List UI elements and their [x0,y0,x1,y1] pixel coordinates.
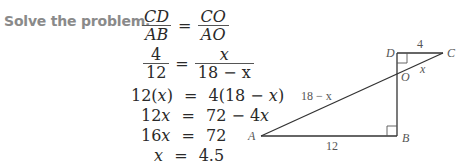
segment-label-oc: x [419,62,426,76]
segment-label-ab: 12 [326,139,338,153]
right-angle-mark-d [397,53,407,63]
point-label-a: A [247,129,256,143]
segment-ac [261,53,443,136]
point-label-b: B [402,131,410,145]
segment-label-ao: 18 − x [301,89,332,103]
point-label-d: D [385,46,395,60]
point-label-c: C [447,46,456,60]
point-label-o: O [401,70,410,84]
right-angle-mark-b [387,126,397,136]
segment-label-dc: 4 [417,37,423,51]
geometry-diagram: A B C D O 12 4 x 18 − x [0,0,462,165]
